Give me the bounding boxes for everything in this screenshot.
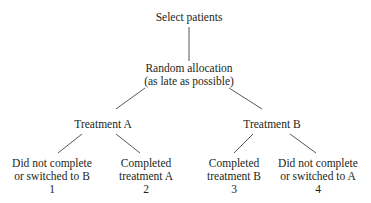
node-label-line1: Random allocation: [144, 62, 234, 75]
node-outcome-3: Completed treatment B 3: [207, 157, 261, 196]
outcome-number: 4: [278, 183, 358, 196]
node-label-line2: (as late as possible): [144, 75, 234, 88]
outcome-line2: treatment A: [119, 170, 173, 183]
node-label: Select patients: [156, 11, 223, 23]
outcome-line1: Completed: [207, 157, 261, 170]
edge-allocation-to-treatment-a: [116, 88, 145, 109]
node-outcome-1: Did not complete or switched to B 1: [12, 157, 92, 196]
outcome-line1: Did not complete: [12, 157, 92, 170]
edge-treatment-b-to-outcome-3: [234, 134, 253, 153]
outcome-line2: or switched to A: [278, 170, 358, 183]
outcome-number: 3: [207, 183, 261, 196]
outcome-line2: treatment B: [207, 170, 261, 183]
outcome-number: 2: [119, 183, 173, 196]
outcome-number: 1: [12, 183, 92, 196]
node-treatment-a: Treatment A: [74, 118, 131, 131]
edge-treatment-b-to-outcome-4: [290, 134, 316, 153]
outcome-line1: Did not complete: [278, 157, 358, 170]
node-select-patients: Select patients: [156, 11, 223, 24]
node-label: Treatment B: [243, 118, 300, 130]
node-outcome-4: Did not complete or switched to A 4: [278, 157, 358, 196]
edge-allocation-to-treatment-b: [229, 88, 262, 109]
node-random-allocation: Random allocation (as late as possible): [144, 62, 234, 88]
edge-treatment-a-to-outcome-2: [116, 134, 140, 153]
node-outcome-2: Completed treatment A 2: [119, 157, 173, 196]
edge-treatment-a-to-outcome-1: [58, 134, 82, 153]
node-label: Treatment A: [74, 118, 131, 130]
outcome-line1: Completed: [119, 157, 173, 170]
outcome-line2: or switched to B: [12, 170, 92, 183]
node-treatment-b: Treatment B: [243, 118, 300, 131]
